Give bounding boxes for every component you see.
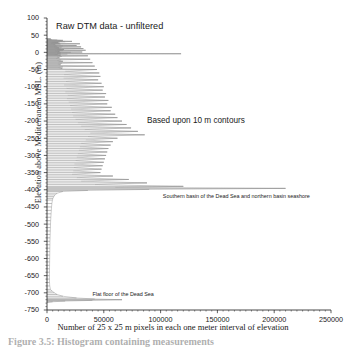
y-tick-label: -750 [5,306,39,313]
x-axis-label: Number of 25 x 25 m pixels in each one m… [0,322,346,332]
southern-basin-annotation: Southern basin of the Dead Sea and north… [163,194,310,199]
y-tick-label: -700 [5,289,39,296]
y-tick-label: -650 [5,272,39,279]
contours-annotation: Based upon 10 m contours [147,117,245,125]
figure-caption: Figure 3.5: Histogram containing measure… [8,336,346,347]
y-tick-label: -550 [5,238,39,245]
figure-container: Raw DTM data - unfiltered Based upon 10 … [0,0,346,347]
y-tick-label: 100 [5,14,39,21]
flat-floor-annotation: Flat floor of the Dead Sea [92,292,153,297]
title-annotation: Raw DTM data - unfiltered [56,22,163,31]
y-axis-label: Elevation above Mediterranean MSL. (m) [34,33,43,233]
y-tick-label: -600 [5,255,39,262]
plot-area: Raw DTM data - unfiltered Based upon 10 … [47,18,331,310]
